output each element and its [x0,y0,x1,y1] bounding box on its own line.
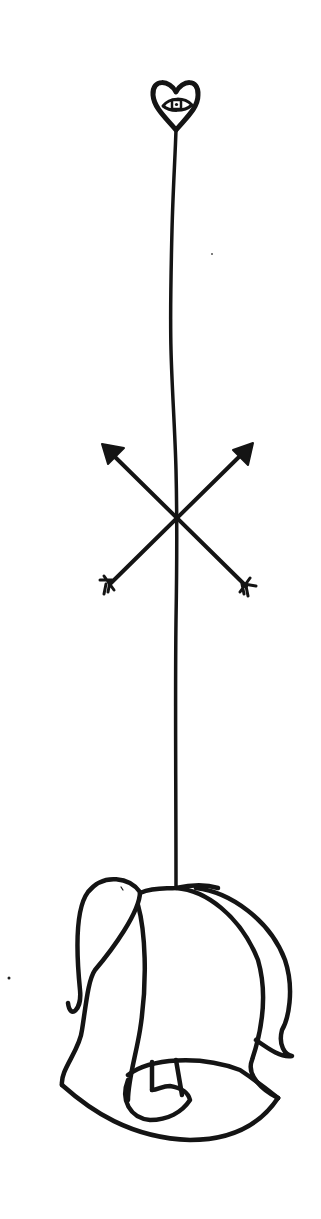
stem-line [171,130,177,888]
ink-speck [211,253,213,255]
ink-speck [8,977,11,980]
line-illustration [0,0,321,1219]
heart-with-eye-icon [153,83,198,130]
scroll-bundle-icon [62,879,292,1140]
